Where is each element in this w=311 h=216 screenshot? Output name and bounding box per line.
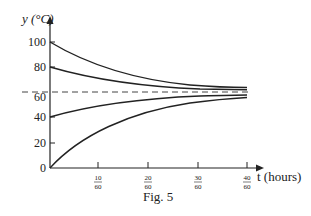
x-tick-denominator: 60 (244, 183, 252, 191)
x-tick-label: 20 (145, 174, 153, 182)
y-tick-label: 20 (34, 136, 46, 150)
x-axis-label: t (hours) (257, 169, 301, 184)
y-axis-label: y (°C) (20, 11, 54, 26)
y-tick-label: 100 (28, 35, 46, 49)
curve-100 (50, 42, 247, 88)
x-tick-denominator: 60 (195, 183, 203, 191)
curves (50, 42, 247, 168)
x-ticks (98, 162, 247, 168)
chart: y (°C) 100 80 60 40 20 0 10 60 20 60 30 … (0, 0, 311, 216)
y-tick-label: 0 (40, 161, 46, 175)
x-tick-label: 30 (195, 174, 203, 182)
x-tick-label: 10 (95, 174, 103, 182)
x-tick-denominator: 60 (95, 183, 103, 191)
y-tick-label: 80 (34, 60, 46, 74)
y-tick-label: 40 (34, 110, 46, 124)
figure-caption: Fig. 5 (143, 189, 173, 204)
y-tick-label: 60 (34, 90, 46, 104)
x-tick-label: 40 (244, 174, 252, 182)
